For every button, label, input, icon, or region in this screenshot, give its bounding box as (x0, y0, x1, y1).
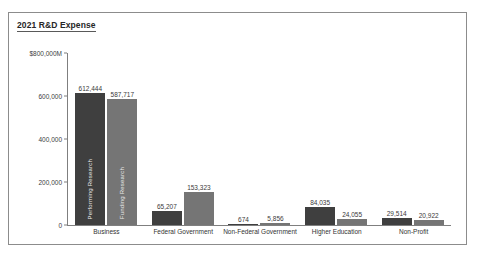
bar-value-label: 674 (238, 216, 249, 223)
x-axis-label-federal-government: Federal Government (145, 228, 222, 236)
bar-wrap-higher-ed-funding: 24,055 (337, 53, 367, 225)
bar-value-label: 20,922 (419, 212, 439, 219)
bar-wrap-federal-performing: 65,207 (152, 53, 182, 225)
x-axis-label-higher-education: Higher Education (298, 228, 375, 236)
bar-value-label: 29,514 (387, 210, 407, 217)
bar-value-label: 65,207 (157, 203, 177, 210)
bar-series-name-label: Funding Research (107, 167, 137, 219)
bar-non-federal-government-performing-research[interactable]: 674 (228, 224, 258, 225)
bar-group-non-federal-government: 674 5,856 (221, 53, 298, 225)
y-axis-tick-mark-0 (64, 225, 67, 226)
bar-wrap-federal-funding: 153,323 (184, 53, 214, 225)
y-axis-tick-mark-600000 (64, 96, 67, 97)
bar-non-federal-government-funding-research[interactable]: 5,856 (260, 223, 290, 225)
chart-container: 2021 R&D Expense $800,000M 600,000 400,0… (8, 12, 467, 245)
y-axis-tick-mark-400000 (64, 139, 67, 140)
bar-series-name-label: Performing Research (75, 159, 105, 220)
bar-wrap-business-funding: 587,717 Funding Research (107, 53, 137, 225)
bar-groups: 612,444 Performing Research 587,717 Fund… (68, 53, 451, 225)
x-axis-label-business: Business (68, 228, 145, 236)
bar-value-label: 153,323 (187, 184, 211, 191)
bar-wrap-higher-ed-performing: 84,035 (305, 53, 335, 225)
bar-wrap-nonfederal-performing: 674 (228, 53, 258, 225)
bar-group-business: 612,444 Performing Research 587,717 Fund… (68, 53, 145, 225)
bar-higher-education-funding-research[interactable]: 24,055 (337, 219, 367, 225)
bar-value-label: 587,717 (111, 91, 135, 98)
x-axis-line (67, 225, 451, 226)
y-axis-tick-600000: 600,000 (39, 93, 68, 100)
bar-group-federal-government: 65,207 153,323 (145, 53, 222, 225)
bar-wrap-nonfederal-funding: 5,856 (260, 53, 290, 225)
chart-title: 2021 R&D Expense (17, 20, 96, 32)
x-axis-label-non-federal-government: Non-Federal Government (222, 228, 299, 236)
bar-federal-government-funding-research[interactable]: 153,323 (184, 192, 214, 225)
bar-group-higher-education: 84,035 24,055 (298, 53, 375, 225)
bar-higher-education-performing-research[interactable]: 84,035 (305, 207, 335, 225)
bar-business-performing-research[interactable]: 612,444 Performing Research (75, 93, 105, 225)
bar-non-profit-performing-research[interactable]: 29,514 (382, 218, 412, 225)
x-axis-category-labels: Business Federal Government Non-Federal … (68, 228, 452, 236)
bar-value-label: 84,035 (310, 199, 330, 206)
y-axis-tick-200000: 200,000 (39, 179, 68, 186)
bar-wrap-non-profit-performing: 29,514 (382, 53, 412, 225)
y-axis-tick-400000: 400,000 (39, 136, 68, 143)
bar-value-label: 24,055 (342, 211, 362, 218)
y-axis-tick-800000: $800,000M (29, 50, 67, 57)
bar-federal-government-performing-research[interactable]: 65,207 (152, 211, 182, 225)
bar-group-non-profit: 29,514 20,922 (374, 53, 451, 225)
plot-area: $800,000M 600,000 400,000 200,000 0 612,… (67, 53, 451, 226)
x-axis-label-non-profit: Non-Profit (375, 228, 452, 236)
bar-business-funding-research[interactable]: 587,717 Funding Research (107, 99, 137, 225)
y-axis-tick-mark-800000 (64, 53, 67, 54)
bar-wrap-non-profit-funding: 20,922 (414, 53, 444, 225)
bar-wrap-business-performing: 612,444 Performing Research (75, 53, 105, 225)
y-axis-tick-mark-200000 (64, 182, 67, 183)
bar-non-profit-funding-research[interactable]: 20,922 (414, 220, 444, 225)
bar-value-label: 612,444 (79, 85, 103, 92)
bar-value-label: 5,856 (267, 215, 283, 222)
